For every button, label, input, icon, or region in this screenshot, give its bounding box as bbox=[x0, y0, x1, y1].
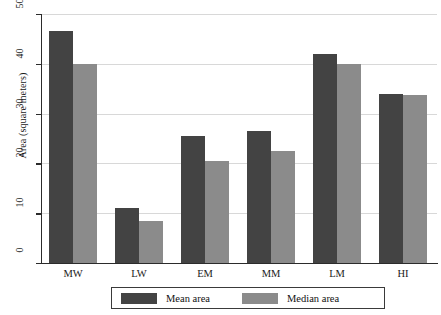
bar-lw-mean bbox=[115, 208, 139, 263]
bar-mw-mean bbox=[49, 31, 73, 263]
y-tick-label: 0 bbox=[14, 248, 25, 278]
x-tick-label-mm: MM bbox=[247, 268, 295, 279]
legend-label-mean-area: Mean area bbox=[166, 293, 210, 304]
bar-hi-mean bbox=[379, 94, 403, 263]
bar-em-median bbox=[205, 161, 229, 263]
legend-label-median-area: Median area bbox=[287, 293, 339, 304]
y-tick-label-wrap: 40 bbox=[0, 58, 34, 70]
x-tick-label-lm: LM bbox=[313, 268, 361, 279]
legend-item-mean-area: Mean area bbox=[121, 288, 210, 308]
bar-group bbox=[247, 14, 295, 263]
bar-group bbox=[313, 14, 361, 263]
legend-item-median-area: Median area bbox=[242, 288, 339, 308]
bar-group bbox=[379, 14, 427, 263]
bar-group bbox=[181, 14, 229, 263]
x-tick-label-lw: LW bbox=[115, 268, 163, 279]
bar-lm-median bbox=[337, 64, 361, 263]
y-tick-label: 10 bbox=[14, 198, 25, 228]
bar-group bbox=[49, 14, 97, 263]
y-tick-label: 20 bbox=[14, 148, 25, 178]
y-tick-label-wrap: 0 bbox=[0, 257, 34, 269]
legend-swatch-median-area bbox=[242, 293, 278, 304]
bars-layer bbox=[42, 14, 438, 263]
bar-mm-median bbox=[271, 151, 295, 263]
y-tick-label-wrap: 50 bbox=[0, 8, 34, 20]
y-tick-label-wrap: 10 bbox=[0, 207, 34, 219]
y-tick-label-wrap: 20 bbox=[0, 157, 34, 169]
x-axis-line bbox=[41, 263, 438, 264]
bar-group bbox=[115, 14, 163, 263]
y-tick-label: 40 bbox=[14, 48, 25, 78]
y-tick-label: 30 bbox=[14, 98, 25, 128]
bar-lm-mean bbox=[313, 54, 337, 263]
x-tick-label-hi: HI bbox=[379, 268, 427, 279]
bar-mm-mean bbox=[247, 131, 271, 263]
y-tick-label: 50 bbox=[14, 0, 25, 29]
x-tick-label-mw: MW bbox=[49, 268, 97, 279]
bar-chart: Area (square meters) 01020304050 MWLWEMM… bbox=[0, 0, 441, 315]
legend: Mean area Median area bbox=[111, 287, 385, 309]
bar-em-mean bbox=[181, 136, 205, 263]
y-tick-label-wrap: 30 bbox=[0, 108, 34, 120]
bar-mw-median bbox=[73, 64, 97, 263]
bar-lw-median bbox=[139, 221, 163, 263]
x-tick-label-em: EM bbox=[181, 268, 229, 279]
bar-hi-median bbox=[403, 95, 427, 263]
legend-swatch-mean-area bbox=[121, 293, 157, 304]
